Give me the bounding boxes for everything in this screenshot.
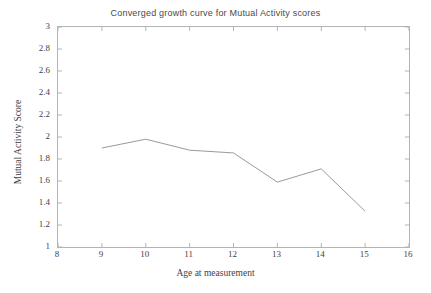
- plot-area: [57, 26, 410, 248]
- x-tick-label: 16: [393, 249, 423, 259]
- x-tick-label: 9: [86, 249, 116, 259]
- x-axis-label: Age at measurement: [0, 268, 431, 278]
- y-tick-label: 3: [8, 21, 50, 31]
- y-tick-marks: [58, 27, 409, 247]
- x-tick-label: 12: [218, 249, 248, 259]
- x-tick-label: 10: [130, 249, 160, 259]
- y-axis-label: Mutual Activity Score: [13, 62, 23, 222]
- y-tick-label: 2.8: [8, 43, 50, 53]
- chart-figure: Converged growth curve for Mutual Activi…: [0, 0, 431, 293]
- x-tick-marks: [58, 27, 409, 247]
- plot-canvas: [58, 27, 409, 247]
- chart-title: Converged growth curve for Mutual Activi…: [0, 8, 431, 18]
- x-tick-label: 14: [305, 249, 335, 259]
- x-tick-label: 13: [261, 249, 291, 259]
- x-tick-label: 11: [174, 249, 204, 259]
- x-tick-label: 8: [42, 249, 72, 259]
- growth-curve-line: [102, 139, 365, 211]
- x-tick-label: 15: [349, 249, 379, 259]
